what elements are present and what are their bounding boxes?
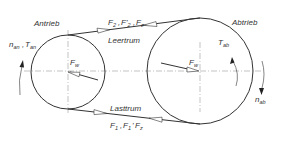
belt-drive-diagram: Antrieb Abtrieb Leertrum Lasttrum nan , …	[0, 0, 283, 146]
drive-rotation-arc	[19, 66, 22, 95]
tight-side-label: Lasttrum	[110, 104, 141, 113]
drive-shaft-force-arrow-icon	[68, 72, 80, 77]
svg-text:Fz: Fz	[136, 18, 144, 28]
T-ab-symbol: Tab	[218, 38, 229, 48]
svg-text:,: ,	[133, 18, 135, 27]
drive-rotation-arrow-icon	[20, 60, 25, 68]
driven-label: Abtrieb	[231, 18, 258, 27]
F-w-right-symbol: Fw	[189, 58, 199, 68]
svg-text:': '	[132, 121, 134, 130]
slack-side-label: Leertrum	[108, 36, 140, 45]
n-an-separator: ,	[22, 40, 24, 49]
svg-text:F1: F1	[110, 121, 118, 131]
drive-label: Antrieb	[33, 19, 60, 28]
F-w-left-symbol: Fw	[70, 58, 80, 68]
tight-side-forces: F1 , F1 ' Fz	[110, 121, 143, 131]
tight-belt-arrow-right-icon	[94, 110, 107, 115]
svg-text:F'2: F'2	[121, 18, 130, 28]
n-ab-symbol: nab	[255, 95, 266, 105]
svg-text:,: ,	[118, 18, 120, 27]
driven-shaft-force-line	[161, 63, 190, 70]
driven-torque-arc	[233, 61, 237, 86]
svg-text:,: ,	[120, 121, 122, 130]
slack-belt-arrow-right-icon	[97, 28, 110, 33]
svg-text:F1: F1	[123, 121, 131, 131]
driven-rotation-arc	[262, 61, 264, 88]
n-an-symbol: nan	[9, 40, 20, 50]
slack-belt-arrow-left-icon	[143, 22, 157, 27]
slack-side-forces: F2 , F'2 , Fz	[108, 18, 144, 28]
driven-rotation-arrow-icon	[259, 88, 264, 95]
T-an-symbol: Tan	[25, 40, 36, 50]
svg-text:Fz: Fz	[135, 121, 143, 131]
tight-belt-arrow-left-icon	[149, 117, 162, 122]
svg-text:F2: F2	[108, 18, 116, 28]
